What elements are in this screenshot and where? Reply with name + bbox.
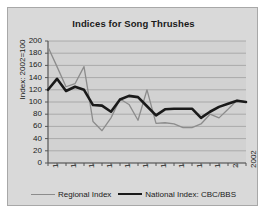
legend-line-swatch-icon [118,193,142,195]
legend-item-label: National Index: CBC/BBS [145,190,236,199]
plot-area [8,8,259,207]
legend-line-swatch-icon [31,194,55,195]
chart-legend: Regional IndexNational Index: CBC/BBS [16,186,251,202]
legend-item[interactable]: National Index: CBC/BBS [118,190,236,199]
legend-item-label: Regional Index [58,190,111,199]
chart-figure: Indices for Song Thrushes Index: 2002=10… [0,0,265,213]
chart-frame: Indices for Song Thrushes Index: 2002=10… [7,7,258,206]
legend-item[interactable]: Regional Index [31,190,111,199]
